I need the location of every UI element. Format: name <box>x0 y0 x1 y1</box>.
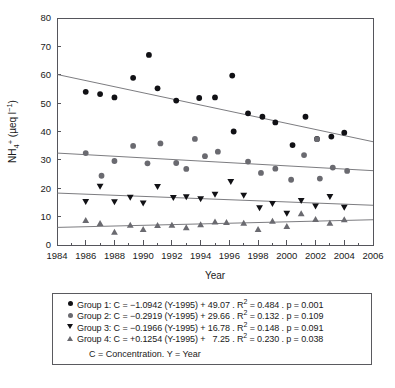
x-tick-label-1986: 1986 <box>75 250 96 261</box>
trend-line-2 <box>57 153 373 171</box>
y-tick-label-70: 70 <box>40 41 51 52</box>
data-point-g4 <box>111 229 118 235</box>
data-point-g3 <box>240 193 247 199</box>
data-point-g2 <box>99 173 105 179</box>
data-point-g2 <box>83 150 89 156</box>
data-point-g2 <box>202 153 208 159</box>
data-point-g2 <box>288 177 294 183</box>
data-point-g1 <box>196 95 202 101</box>
data-point-g3 <box>269 201 276 207</box>
legend-label-3: Group 3: C = −0.1966 (Y-1995) + 16.78 . … <box>77 321 323 333</box>
data-point-g1 <box>173 98 179 104</box>
data-point-g1 <box>112 95 118 101</box>
data-point-g4 <box>255 226 262 232</box>
data-point-g1 <box>260 114 266 120</box>
data-point-g1 <box>290 142 296 148</box>
x-tick-label-2006: 2006 <box>362 250 383 261</box>
data-point-g2 <box>145 160 151 166</box>
data-point-g3 <box>227 179 234 185</box>
data-point-g1 <box>272 120 278 126</box>
data-point-g4 <box>223 219 230 225</box>
data-point-g3 <box>341 205 348 211</box>
data-point-g2 <box>330 165 336 171</box>
data-point-g1 <box>245 110 251 116</box>
filled-triangle-up-icon <box>67 336 73 341</box>
data-point-g3 <box>212 192 219 198</box>
data-point-g3 <box>127 195 134 201</box>
data-point-g1 <box>328 134 334 140</box>
data-point-g2 <box>215 149 221 155</box>
legend-marker-icon-3 <box>63 321 77 332</box>
x-tick-label-1988: 1988 <box>104 250 125 261</box>
legend-marker-icon-4 <box>63 333 77 344</box>
data-point-g1 <box>212 95 218 101</box>
y-tick-label-60: 60 <box>40 69 51 80</box>
scatter-plot: 0102030405060708019841986198819901992199… <box>0 0 395 300</box>
y-tick-label-0: 0 <box>46 239 51 250</box>
data-point-g3 <box>256 205 263 211</box>
data-point-g2 <box>301 152 307 158</box>
x-tick-label-1992: 1992 <box>161 250 182 261</box>
data-point-g4 <box>298 210 305 216</box>
x-tick-label-1990: 1990 <box>133 250 154 261</box>
y-tick-label-80: 80 <box>40 12 51 23</box>
y-tick-label-10: 10 <box>40 211 51 222</box>
x-tick-label-1994: 1994 <box>190 250 211 261</box>
data-point-g2 <box>258 170 264 176</box>
data-point-g2 <box>130 143 136 149</box>
filled-circle-dark-icon <box>68 301 73 306</box>
filled-circle-gray-icon <box>68 313 73 318</box>
y-tick-label-40: 40 <box>40 126 51 137</box>
data-point-g3 <box>327 194 334 200</box>
legend-row-1: Group 1: C = −1.0942 (Y-1995) + 49.07 . … <box>53 298 371 310</box>
legend-box: Group 1: C = −1.0942 (Y-1995) + 49.07 . … <box>52 293 372 365</box>
legend-row-2: Group 2: C = −0.2919 (Y-1995) + 29.66 . … <box>53 310 371 322</box>
data-point-g1 <box>130 75 136 81</box>
data-point-g1 <box>83 89 89 95</box>
x-tick-label-2004: 2004 <box>334 250 355 261</box>
svg-text:NH4+ (µeq l−1): NH4+ (µeq l−1) <box>5 100 21 163</box>
data-point-g2 <box>317 176 323 182</box>
data-point-g4 <box>183 224 190 230</box>
legend-rows: Group 1: C = −1.0942 (Y-1995) + 49.07 . … <box>53 298 371 344</box>
data-point-g4 <box>127 222 134 228</box>
figure-container: 0102030405060708019841986198819901992199… <box>0 0 395 388</box>
data-point-g4 <box>140 226 147 232</box>
data-point-g2 <box>314 136 320 142</box>
y-tick-label-20: 20 <box>40 183 51 194</box>
y-tick-label-30: 30 <box>40 154 51 165</box>
data-point-g3 <box>183 194 190 200</box>
data-point-g3 <box>97 184 104 190</box>
x-tick-label-2000: 2000 <box>276 250 297 261</box>
data-point-g2 <box>344 168 350 174</box>
legend-row-4: Group 4: C = +0.1254 (Y-1995) + 7.25 . R… <box>53 333 371 345</box>
data-point-g2 <box>192 136 198 142</box>
legend-label-2: Group 2: C = −0.2919 (Y-1995) + 29.66 . … <box>77 309 323 321</box>
legend-marker-icon-1 <box>63 298 77 309</box>
data-point-g2 <box>158 141 164 147</box>
data-point-g3 <box>82 199 89 205</box>
data-point-g2 <box>245 159 251 165</box>
x-tick-label-1998: 1998 <box>248 250 269 261</box>
legend-note: C = Concentration. Y = Year <box>89 349 201 359</box>
data-point-g3 <box>283 211 290 217</box>
y-tick-label-50: 50 <box>40 98 51 109</box>
data-point-g2 <box>272 166 278 172</box>
data-point-g1 <box>155 85 161 91</box>
y-axis-title: NH4+ (µeq l−1) <box>5 100 21 163</box>
data-point-g1 <box>146 52 152 58</box>
data-point-g3 <box>140 200 147 206</box>
x-tick-label-2002: 2002 <box>305 250 326 261</box>
x-tick-label-1984: 1984 <box>46 250 67 261</box>
data-point-g3 <box>154 184 161 190</box>
data-point-g4 <box>97 220 104 226</box>
data-point-g1 <box>231 129 237 135</box>
filled-triangle-down-icon <box>67 324 73 329</box>
data-point-g4 <box>312 216 319 222</box>
data-point-g2 <box>112 158 118 164</box>
data-point-g4 <box>283 223 290 229</box>
data-point-g3 <box>197 196 204 202</box>
data-point-g3 <box>111 199 118 205</box>
data-point-g1 <box>97 91 103 97</box>
x-axis-title: Year <box>205 270 226 281</box>
